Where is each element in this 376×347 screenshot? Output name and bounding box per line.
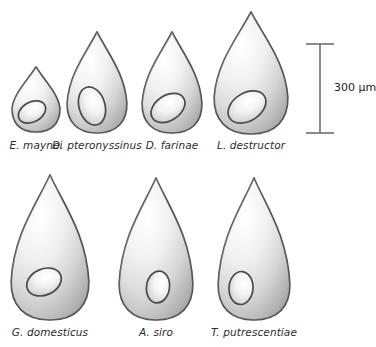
egg-e-maynei bbox=[12, 67, 60, 132]
scale-bar-label: 300 µm bbox=[334, 81, 376, 94]
egg-label-d-pteronyssinus: D. pteronyssinus bbox=[52, 139, 142, 151]
egg-t-putrescentiae bbox=[218, 178, 290, 320]
egg-label-g-domesticus: G. domesticus bbox=[12, 326, 88, 338]
eggs-layer bbox=[11, 12, 290, 320]
egg-d-farinae bbox=[142, 32, 202, 133]
egg-a-siro bbox=[119, 178, 193, 320]
egg-d-pteronyssinus bbox=[67, 32, 127, 133]
egg-label-t-putrescentiae: T. putrescentiae bbox=[211, 326, 297, 338]
egg-g-domesticus bbox=[11, 175, 89, 320]
top-row bbox=[12, 12, 288, 134]
egg-label-l-destructor: L. destructor bbox=[217, 139, 285, 151]
egg-sheen bbox=[11, 175, 89, 320]
egg-l-destructor bbox=[214, 12, 288, 134]
bottom-row bbox=[11, 175, 290, 320]
egg-sheen bbox=[218, 178, 290, 320]
egg-label-d-farinae: D. farinae bbox=[146, 139, 199, 151]
egg-sheen bbox=[12, 67, 60, 132]
egg-label-a-siro: A. siro bbox=[139, 326, 173, 338]
scale-bar bbox=[306, 44, 334, 133]
